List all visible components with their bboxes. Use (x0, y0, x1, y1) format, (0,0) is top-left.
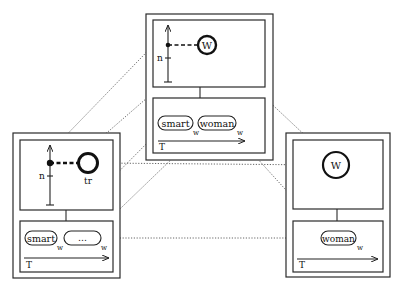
right-frame-text-panel (293, 221, 383, 272)
left-word-ellipsis-subscript: w (101, 244, 107, 252)
right-word-woman: woman (322, 234, 355, 244)
left-circle-label: tr (84, 176, 93, 186)
top-word-woman: woman (200, 118, 235, 129)
right-circle-label: W (331, 160, 342, 171)
top-word-smart: smart (162, 118, 190, 129)
top-word-smart-subscript: w (193, 129, 199, 137)
diagram-canvas: n W smart w woman w T n tr smart w (0, 0, 404, 288)
left-circle (79, 154, 98, 173)
left-frame: n tr smart w … w T (13, 133, 120, 278)
left-word-smart-subscript: w (57, 244, 63, 252)
left-word-smart: smart (27, 233, 55, 244)
right-word-woman-subscript: w (357, 244, 363, 252)
left-frame-situation-panel (20, 140, 113, 210)
top-word-woman-subscript: w (237, 129, 243, 137)
left-axis-label: n (39, 171, 45, 181)
right-frame: W woman w T (286, 133, 390, 277)
right-timeline-label: T (299, 260, 305, 270)
top-frame: n W smart w woman w T (146, 14, 273, 160)
left-word-ellipsis: … (78, 233, 87, 243)
top-circle-label: W (202, 40, 213, 51)
top-timeline-label: T (159, 142, 165, 152)
left-timeline-label: T (26, 260, 32, 270)
top-axis-label: n (157, 53, 163, 63)
left-frame-text-panel (20, 221, 113, 272)
